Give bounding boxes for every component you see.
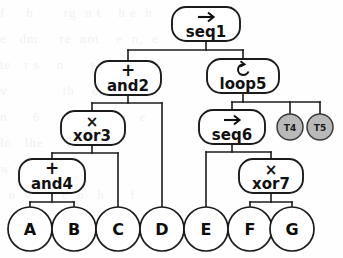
node-b-label: B: [68, 220, 80, 239]
node-a[interactable]: A: [8, 207, 52, 251]
node-seq6-label: seq6: [212, 126, 252, 144]
node-and2-label: and2: [107, 77, 149, 95]
node-t4[interactable]: T4: [277, 114, 303, 140]
node-e[interactable]: E: [184, 207, 228, 251]
node-c[interactable]: C: [96, 207, 140, 251]
node-xor7[interactable]: × xor7: [239, 159, 303, 193]
node-t5-label: T5: [314, 123, 326, 133]
node-and4[interactable]: + and4: [19, 158, 85, 193]
node-seq1[interactable]: seq1: [172, 7, 240, 41]
node-g[interactable]: G: [270, 207, 314, 251]
process-tree: seq1 + and2 loop5 × xor3: [0, 0, 343, 258]
node-xor3[interactable]: × xor3: [61, 111, 125, 145]
node-loop5[interactable]: loop5: [207, 59, 279, 93]
node-f-label: F: [245, 220, 256, 239]
node-g-label: G: [285, 220, 298, 239]
node-xor3-label: xor3: [73, 127, 111, 145]
node-b[interactable]: B: [52, 207, 96, 251]
node-xor7-label: xor7: [252, 175, 290, 193]
node-d[interactable]: D: [140, 207, 184, 251]
node-t4-label: T4: [284, 123, 296, 133]
node-and2[interactable]: + and2: [95, 60, 161, 95]
node-and4-label: and4: [31, 175, 73, 193]
node-f[interactable]: F: [228, 207, 272, 251]
node-seq1-label: seq1: [186, 23, 226, 41]
node-t5[interactable]: T5: [307, 114, 333, 140]
node-loop5-label: loop5: [220, 75, 267, 93]
node-d-label: D: [155, 220, 168, 239]
node-seq6[interactable]: seq6: [199, 110, 265, 144]
figure-canvas: f h rg n t h e h e dm re not e n, e te r…: [0, 0, 343, 258]
node-a-label: A: [24, 220, 37, 239]
node-e-label: E: [201, 220, 212, 239]
node-c-label: C: [112, 220, 124, 239]
